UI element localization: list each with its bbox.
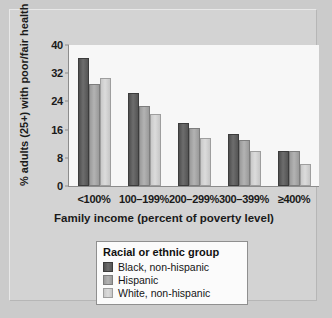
bar-group (128, 45, 161, 186)
y-axis-tick-label: 0 (57, 180, 63, 192)
bar (139, 106, 150, 186)
bar (189, 128, 200, 186)
legend-title: Racial or ethnic group (103, 246, 241, 258)
bar-group (178, 45, 211, 186)
bar (250, 151, 261, 186)
bar (300, 164, 311, 186)
legend-item: White, non-hispanic (103, 286, 241, 299)
bar (289, 151, 300, 186)
bar (150, 114, 161, 186)
bar (278, 151, 289, 186)
bar (78, 58, 89, 186)
y-axis-tick-label: 24 (51, 95, 63, 107)
x-axis-tick-label: <100% (77, 193, 110, 205)
legend-item: Black, non-hispanic (103, 260, 241, 273)
y-axis-tick-label: 8 (57, 152, 63, 164)
y-axis-tick-label: 16 (51, 124, 63, 136)
bar (89, 84, 100, 186)
legend-rows: Black, non-hispanicHispanicWhite, non-hi… (103, 260, 241, 299)
y-axis-tick-label: 32 (51, 67, 63, 79)
figure-canvas: % adults (25+) with poor/fair health 081… (0, 0, 332, 318)
legend-item: Hispanic (103, 273, 241, 286)
bar (100, 78, 111, 186)
x-axis-tick-label: 200–299% (169, 193, 219, 205)
legend-item-label: White, non-hispanic (118, 287, 210, 299)
bar (200, 138, 211, 186)
legend-item-label: Black, non-hispanic (118, 261, 209, 273)
legend-swatch-icon (103, 275, 113, 285)
legend-swatch-icon (103, 262, 113, 272)
legend: Racial or ethnic group Black, non-hispan… (96, 241, 248, 305)
legend-item-label: Hispanic (118, 274, 158, 286)
x-axis-tick-label: ≥400% (278, 193, 311, 205)
bar (178, 123, 189, 186)
bar (239, 140, 250, 186)
y-axis-tick-label: 40 (51, 39, 63, 51)
chart-panel: % adults (25+) with poor/fair health 081… (9, 9, 317, 301)
plot-area: 0816243240 <100%100–199%200–299%300–399%… (68, 45, 319, 187)
x-axis-tick-label: 100–199% (119, 193, 169, 205)
x-axis-tick-label: 300–399% (219, 193, 269, 205)
y-axis-title: % adults (25+) with poor/fair health (16, 45, 32, 186)
bar-group (78, 45, 111, 186)
bar-group (228, 45, 261, 186)
bars-layer (69, 45, 319, 186)
bar (128, 93, 139, 186)
legend-swatch-icon (103, 288, 113, 298)
bar (228, 134, 239, 186)
x-axis-title: Family income (percent of poverty level) (22, 212, 306, 224)
bar-group (278, 45, 311, 186)
